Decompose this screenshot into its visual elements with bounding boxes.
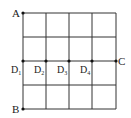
label-d3-sub: 3 [64, 70, 67, 76]
point-b [21, 107, 24, 110]
label-d3: D3 [57, 64, 67, 76]
point-d1 [21, 59, 24, 62]
label-c: C [118, 55, 125, 67]
label-d2-main: D [34, 64, 41, 75]
grid-diagram: A B C D1 D2 D3 D4 [0, 0, 131, 118]
label-d1-main: D [11, 64, 18, 75]
point-d3 [67, 59, 70, 62]
label-d2-sub: 2 [41, 70, 44, 76]
label-d1-sub: 1 [18, 70, 21, 76]
label-d4-sub: 4 [87, 70, 90, 76]
label-d4-main: D [80, 64, 87, 75]
label-b: B [12, 103, 19, 115]
point-a [21, 11, 24, 14]
label-a: A [12, 7, 20, 19]
label-d3-main: D [57, 64, 64, 75]
label-d4: D4 [80, 64, 90, 76]
point-d4 [90, 59, 93, 62]
point-d2 [44, 59, 47, 62]
label-d2: D2 [34, 64, 44, 76]
label-d1: D1 [11, 64, 21, 76]
